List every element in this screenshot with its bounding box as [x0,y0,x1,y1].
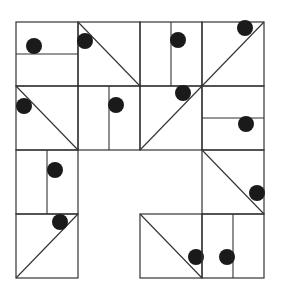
tile-r1c1 [78,86,140,150]
dot-marker [219,249,235,265]
tile-split-line [16,86,78,150]
tile-r2c0 [16,150,78,214]
tile-split-line [140,214,202,278]
tile-split-line [202,22,264,86]
tile-r1c0 [16,86,78,150]
tile-r2c3 [202,150,265,214]
dot-marker [52,214,68,230]
tile-split-line [202,150,264,214]
tile-r0c0 [16,22,78,86]
dot-marker [175,85,191,101]
tile-r3c2 [140,214,204,278]
dot-marker [26,38,42,54]
dot-marker [16,98,32,114]
dot-marker [237,20,253,36]
tile-r1c2 [140,85,202,150]
puzzle-board [0,0,283,297]
tile-split-line [16,214,78,278]
tile-r1c3 [202,86,264,150]
tile-r3c0 [16,214,78,278]
dot-marker [170,32,186,48]
dot-marker [47,162,63,178]
tile-r0c2 [140,22,202,86]
dot-marker [238,116,254,132]
tile-split-line [78,22,140,86]
dot-marker [77,33,93,49]
tile-r3c3 [202,214,264,278]
tile-split-line [140,86,202,150]
dot-marker [249,185,265,201]
tile-r0c1 [77,22,140,86]
tile-r0c3 [202,20,264,86]
dot-marker [108,97,124,113]
